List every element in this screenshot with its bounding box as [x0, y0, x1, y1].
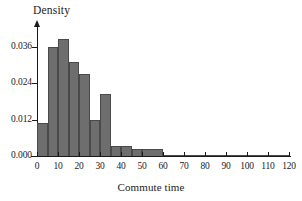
y-axis-title: Density — [33, 4, 70, 16]
histogram-bar — [37, 123, 48, 156]
histogram-bar — [90, 120, 101, 156]
histogram-bar — [226, 155, 247, 156]
y-axis-tick-label: 0.000 — [0, 150, 32, 160]
x-axis-tick-mark — [37, 152, 38, 156]
histogram-bar — [58, 39, 69, 156]
y-axis-tick-label: 0.036 — [0, 41, 32, 51]
histogram-bar — [163, 155, 184, 156]
x-axis-tick-mark — [100, 152, 101, 156]
x-axis-tick-mark — [163, 152, 164, 156]
histogram-bar — [79, 74, 90, 156]
histogram-bar — [142, 149, 163, 156]
x-axis-tick-mark — [268, 152, 269, 156]
x-axis-tick-mark — [226, 152, 227, 156]
y-axis-tick-mark — [32, 47, 38, 48]
x-axis-tick-mark — [142, 152, 143, 156]
x-axis-tick-mark — [121, 152, 122, 156]
histogram-bar — [48, 47, 59, 156]
y-axis-tick-label: 0.012 — [0, 114, 32, 124]
histogram-bar — [184, 155, 205, 156]
histogram-bar — [268, 155, 289, 156]
histogram-figure: Density 0.0000.0120.0240.036 01020304050… — [0, 0, 302, 201]
histogram-bar — [247, 155, 268, 156]
histogram-bar — [69, 62, 80, 156]
y-axis-tick-label: 0.024 — [0, 77, 32, 87]
x-axis-tick-mark — [289, 152, 290, 156]
x-axis-tick-mark — [184, 152, 185, 156]
x-axis-title: Commute time — [0, 181, 302, 193]
histogram-bar — [121, 146, 132, 156]
y-axis-tick-mark — [32, 120, 38, 121]
x-axis-tick-mark — [247, 152, 248, 156]
x-axis-tick-mark — [205, 152, 206, 156]
y-axis-tick-mark — [32, 83, 38, 84]
x-axis-tick-mark — [79, 152, 80, 156]
x-axis-tick-mark — [58, 152, 59, 156]
x-axis-line — [31, 156, 291, 157]
histogram-bar — [132, 149, 143, 156]
histogram-bar — [111, 146, 122, 156]
x-axis-tick-label: 120 — [277, 161, 301, 171]
histogram-bar — [100, 94, 111, 156]
histogram-bar — [205, 155, 226, 156]
